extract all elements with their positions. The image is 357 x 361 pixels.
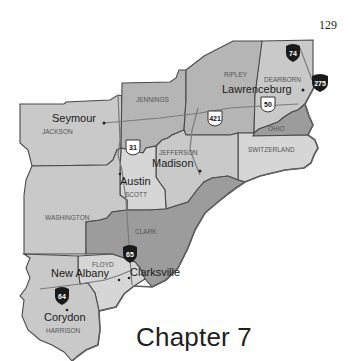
us-31-shield: 31 bbox=[126, 140, 140, 155]
city-lawrenceburg[interactable]: Lawrenceburg bbox=[222, 83, 292, 95]
label-jackson: JACKSON bbox=[42, 128, 73, 135]
svg-text:64: 64 bbox=[58, 293, 66, 300]
city-seymour[interactable]: Seymour bbox=[52, 112, 96, 124]
city-corydon[interactable]: Corydon bbox=[44, 311, 86, 323]
corydon-dot bbox=[66, 309, 69, 312]
city-clarksville[interactable]: Clarksville bbox=[130, 266, 180, 278]
svg-text:31: 31 bbox=[129, 144, 137, 151]
madison-dot bbox=[199, 170, 202, 173]
label-dearborn: DEARBORN bbox=[264, 76, 301, 83]
svg-text:421: 421 bbox=[209, 115, 221, 122]
new-albany-dot bbox=[118, 279, 121, 282]
svg-text:74: 74 bbox=[289, 50, 297, 57]
label-ohio: OHIO bbox=[268, 125, 285, 132]
clarksville-dot bbox=[128, 277, 131, 280]
svg-text:65: 65 bbox=[126, 251, 134, 258]
label-switzerland: SWITZERLAND bbox=[248, 146, 295, 153]
label-ripley: RIPLEY bbox=[224, 71, 248, 78]
southeast-indiana-map: JENNINGS RIPLEY DEARBORN OHIO SWITZERLAN… bbox=[0, 0, 357, 361]
city-austin[interactable]: Austin bbox=[120, 175, 151, 187]
us-50-shield: 50 bbox=[261, 97, 275, 112]
interstate-275-shield: 275 bbox=[312, 74, 328, 92]
label-washington: WASHINGTON bbox=[45, 214, 90, 221]
us-421-shield: 421 bbox=[208, 111, 222, 126]
label-clark: CLARK bbox=[135, 228, 157, 235]
county-switzerland[interactable] bbox=[238, 133, 318, 182]
label-jennings: JENNINGS bbox=[136, 96, 170, 103]
label-scott: SCOTT bbox=[125, 191, 147, 198]
label-jefferson: JEFFERSON bbox=[159, 149, 198, 156]
city-new-albany[interactable]: New Albany bbox=[51, 267, 110, 279]
lawrenceburg-dot bbox=[302, 89, 305, 92]
label-harrison: HARRISON bbox=[46, 327, 81, 334]
austin-dot bbox=[119, 173, 122, 176]
svg-text:275: 275 bbox=[314, 80, 326, 87]
city-madison[interactable]: Madison bbox=[152, 157, 194, 169]
seymour-dot bbox=[103, 122, 106, 125]
chapter-title: Chapter 7 bbox=[136, 322, 252, 353]
svg-text:50: 50 bbox=[264, 101, 272, 108]
